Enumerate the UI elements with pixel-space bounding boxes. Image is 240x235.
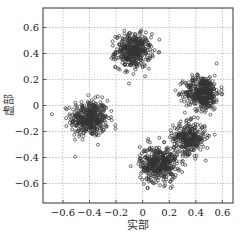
y-tick-label: 0.4 [23,48,39,59]
y-axis-ticks: −0.6−0.4−0.200.20.40.6 [15,22,46,189]
x-tick-label: 0 [139,207,145,218]
x-tick-label: −0.4 [77,207,101,218]
x-tick-label: 0.6 [214,207,230,218]
y-axis-label: 虚部 [2,94,16,116]
x-tick-label: 0.4 [188,207,204,218]
x-tick-label: 0.2 [161,207,177,218]
scatter-points [50,29,223,190]
y-tick-label: −0.2 [15,126,39,137]
y-tick-label: 0 [33,100,39,111]
y-tick-label: 0.2 [23,74,39,85]
x-axis-label: 实部 [127,218,149,232]
y-tick-label: 0.6 [23,22,39,33]
x-tick-label: −0.6 [51,207,75,218]
y-tick-label: −0.4 [15,152,39,163]
y-tick-label: −0.6 [15,178,39,189]
x-tick-label: −0.2 [104,207,128,218]
scatter-chart: −0.6−0.4−0.200.20.40.6 −0.6−0.4−0.200.20… [0,0,240,235]
